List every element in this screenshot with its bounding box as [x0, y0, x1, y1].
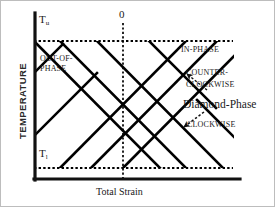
t-upper-symbol: T: [39, 13, 46, 25]
t-lower-subscript: l: [46, 153, 48, 161]
t-upper-tick-label: Tu: [39, 14, 49, 27]
t-lower-tick-label: Tl: [39, 148, 48, 161]
in-phase-line-4: [29, 73, 97, 141]
zero-tick-label: 0: [119, 9, 125, 21]
t-upper-subscript: u: [46, 19, 50, 27]
out-of-phase-line-1: OUT-OF-: [40, 54, 73, 63]
out-of-phase-annotation: OUT-OF-PHASE: [40, 54, 73, 74]
in-phase-annotation: IN-PHASE: [181, 46, 219, 54]
y-axis-title: TEMPERATURE: [18, 41, 28, 161]
clockwise-annotation: CLOCKWISE: [187, 121, 235, 129]
counter-clockwise-line-1: COUNTER-: [186, 68, 228, 77]
diamond-phase-annotation: Diamond-Phase: [183, 98, 256, 110]
tmf-diamond-phase-diagram: TEMPERATURE Total Strain 0 Tu Tl OUT-OF-…: [0, 0, 275, 207]
x-axis-title: Total Strain: [96, 187, 143, 198]
t-lower-symbol: T: [39, 147, 46, 159]
counter-clockwise-annotation: COUNTER-CLOCKWISE: [186, 67, 234, 90]
counter-clockwise-line-2: CLOCKWISE: [186, 80, 234, 89]
out-of-phase-line-2: PHASE: [40, 64, 66, 73]
